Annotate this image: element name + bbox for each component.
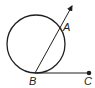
circle [7,15,65,73]
label-b: B [29,75,36,87]
ray-ba [35,6,72,73]
label-a: A [62,21,70,33]
geometry-diagram: A B C [0,0,95,88]
label-c: C [84,75,92,87]
